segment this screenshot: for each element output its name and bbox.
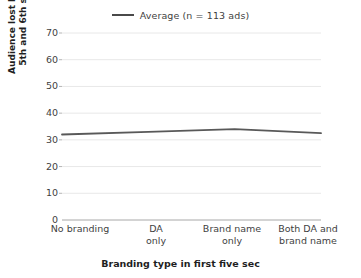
y-axis-tick-labels: 70 60 50 40 30 20 10 0 — [30, 33, 58, 220]
x-tick-line-1: Both DA and — [270, 223, 346, 235]
x-axis-title: Branding type in first five sec — [0, 258, 361, 269]
series-line-average — [62, 129, 321, 134]
y-axis-title-line-1: Audience lost between — [7, 0, 17, 74]
x-tick-label-da-only: DA only — [118, 223, 194, 253]
x-tick-label-both-da-and-brand-name: Both DA and brand name — [270, 223, 346, 253]
y-tick-label: 40 — [30, 108, 58, 118]
plot-area — [62, 33, 321, 220]
x-tick-label-brand-name-only: Brand name only — [194, 223, 270, 253]
y-tick-label: 20 — [30, 162, 58, 172]
y-tick-label: 10 — [30, 188, 58, 198]
y-axis-title-line-2: 5th and 6th sec (%) — [18, 0, 28, 66]
line-chart-svg — [62, 33, 321, 220]
legend-line-swatch — [112, 14, 134, 16]
x-tick-line-1: Brand name — [194, 223, 270, 235]
y-tick-label: 30 — [30, 135, 58, 145]
y-tick-label: 70 — [30, 28, 58, 38]
y-axis-title: Audience lost between 5th and 6th sec (%… — [4, 0, 32, 82]
x-tick-line-1: No branding — [42, 223, 118, 235]
y-axis-ticks — [59, 33, 62, 193]
legend-label-average: Average (n = 113 ads) — [140, 10, 250, 21]
chart-legend: Average (n = 113 ads) — [0, 6, 361, 24]
x-tick-line-1: DA — [118, 223, 194, 235]
y-tick-label: 60 — [30, 55, 58, 65]
x-tick-line-2: brand name — [270, 235, 346, 247]
x-tick-label-no-branding: No branding — [42, 223, 118, 253]
gridlines — [62, 33, 321, 193]
chart-container: Average (n = 113 ads) Audience lost betw… — [0, 0, 361, 278]
y-tick-label: 50 — [30, 81, 58, 91]
x-tick-line-2: only — [118, 235, 194, 247]
x-tick-line-2: only — [194, 235, 270, 247]
x-axis-tick-labels: No branding DA only Brand name only Both… — [42, 223, 346, 253]
